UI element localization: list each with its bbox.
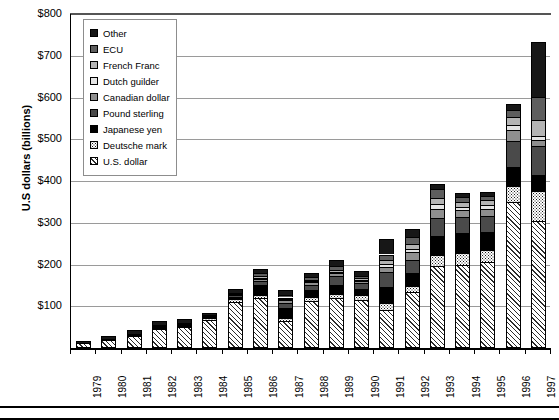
bar-segment-ecu <box>405 237 420 244</box>
bar-segment-other <box>531 42 546 97</box>
bar-segment-other <box>177 319 192 324</box>
bar-segment-canadian-dollar <box>379 267 394 272</box>
bar-segment-french-franc <box>329 270 344 272</box>
bar-segment-other <box>354 271 369 276</box>
bar-segment-japanese-yen <box>506 167 521 187</box>
bar-segment-japanese-yen <box>531 175 546 191</box>
bar-segment-dutch-guilder <box>480 205 495 208</box>
bar-1981 <box>127 330 142 348</box>
x-axis-tick-label: 1982 <box>167 354 179 398</box>
bar-segment-dutch-guilder <box>379 264 394 267</box>
bar-segment-french-franc <box>480 200 495 205</box>
bar-segment-ecu <box>455 197 470 202</box>
bar-1996 <box>506 104 521 348</box>
bar-1986 <box>253 269 268 348</box>
bar-segment-other <box>127 330 142 334</box>
bar-segment-canadian-dollar <box>480 209 495 217</box>
bar-segment-u-s-dollar <box>127 336 142 348</box>
bar-1992 <box>405 229 420 348</box>
bar-segment-canadian-dollar <box>405 252 420 260</box>
bar-segment-deutsche-mark <box>455 253 470 264</box>
bar-segment-other <box>329 260 344 266</box>
bar-segment-french-franc <box>278 298 293 300</box>
legend-item-ecu: ECU <box>90 41 170 57</box>
bar-segment-japanese-yen <box>152 325 167 328</box>
bar-segment-pound-sterling <box>253 281 268 285</box>
bar-segment-canadian-dollar <box>253 279 268 281</box>
legend-item-label: Pound sterling <box>103 108 164 119</box>
bar-segment-u-s-dollar <box>304 301 319 348</box>
bar-segment-ecu <box>253 273 268 276</box>
bar-segment-other <box>278 290 293 295</box>
swatch-french-franc-icon <box>90 61 98 69</box>
bar-1994 <box>455 193 470 348</box>
legend-item-label: Deutsche mark <box>103 140 167 151</box>
bar-segment-u-s-dollar <box>152 329 167 348</box>
bar-segment-canadian-dollar <box>455 210 470 217</box>
bar-segment-dutch-guilder <box>354 280 369 281</box>
legend-item-pound-sterling: Pound sterling <box>90 105 170 121</box>
x-axis-tick-label: 1991 <box>395 354 407 398</box>
bar-segment-pound-sterling <box>480 216 495 231</box>
legend-item-label: Other <box>103 28 127 39</box>
bar-segment-other <box>480 192 495 196</box>
bar-segment-other <box>405 229 420 237</box>
bar-segment-deutsche-mark <box>177 326 192 327</box>
bar-segment-u-s-dollar <box>228 302 243 348</box>
x-axis-tick-label: 1996 <box>521 354 533 398</box>
x-axis-tick-labels: 1979198019811982198319841985198619871988… <box>70 356 550 400</box>
legend-item-deutsche-mark: Deutsche mark <box>90 137 170 153</box>
bar-segment-other <box>506 104 521 110</box>
bar-segment-dutch-guilder <box>506 125 521 130</box>
bar-1991 <box>379 239 394 348</box>
bar-segment-ecu <box>379 255 394 260</box>
bar-segment-other <box>304 273 319 277</box>
x-axis-tick-label: 1987 <box>294 354 306 398</box>
bar-segment-pound-sterling <box>329 276 344 285</box>
x-axis-tick-label: 1992 <box>420 354 432 398</box>
bar-segment-deutsche-mark <box>228 299 243 302</box>
bar-segment-u-s-dollar <box>430 266 445 348</box>
x-axis-tick-label: 1993 <box>445 354 457 398</box>
bar-segment-u-s-dollar <box>278 321 293 348</box>
bar-1997 <box>531 42 546 348</box>
bar-segment-japanese-yen <box>379 287 394 303</box>
bar-segment-dutch-guilder <box>278 299 293 300</box>
legend-item-label: Japanese yen <box>103 124 162 135</box>
legend-item-label: U.S. dollar <box>103 156 147 167</box>
x-axis-tick-label: 1988 <box>319 354 331 398</box>
bar-segment-french-franc <box>531 120 546 136</box>
swatch-japanese-yen-icon <box>90 125 98 133</box>
bar-segment-french-franc <box>354 278 369 280</box>
bar-segment-french-franc <box>405 244 420 249</box>
bar-1984 <box>202 313 217 348</box>
y-axis-tick-label: $100 <box>0 300 62 311</box>
chart-legend: OtherECUFrench FrancDutch guilderCanadia… <box>83 19 177 176</box>
bar-segment-japanese-yen <box>278 308 293 318</box>
bar-segment-other <box>379 239 394 254</box>
legend-item-french-franc: French Franc <box>90 57 170 73</box>
y-axis-tick-label: $500 <box>0 133 62 144</box>
bar-segment-deutsche-mark <box>304 297 319 301</box>
x-axis-tick-label: 1981 <box>142 354 154 398</box>
y-axis-tick-label: $600 <box>0 92 62 103</box>
bar-segment-french-franc <box>506 117 521 125</box>
legend-item-japanese-yen: Japanese yen <box>90 121 170 137</box>
y-axis-tick-label: $200 <box>0 259 62 270</box>
bar-segment-ecu <box>354 276 369 279</box>
bar-segment-pound-sterling <box>354 283 369 289</box>
x-axis-tick-label: 1984 <box>218 354 230 398</box>
bar-segment-other <box>76 341 91 343</box>
x-axis-tick-label: 1989 <box>344 354 356 398</box>
bar-segment-dutch-guilder <box>455 207 470 210</box>
swatch-deutsche-mark-icon <box>90 141 98 149</box>
legend-item-other: Other <box>90 25 170 41</box>
swatch-us-dollar-icon <box>90 157 98 165</box>
legend-item-label: Canadian dollar <box>103 92 170 103</box>
bar-segment-pound-sterling <box>506 141 521 167</box>
x-axis-tick-label: 1995 <box>496 354 508 398</box>
footer-rule-top <box>0 406 559 408</box>
bar-segment-japanese-yen <box>228 297 243 300</box>
bar-segment-japanese-yen <box>253 285 268 294</box>
x-axis-tick-label: 1990 <box>370 354 382 398</box>
